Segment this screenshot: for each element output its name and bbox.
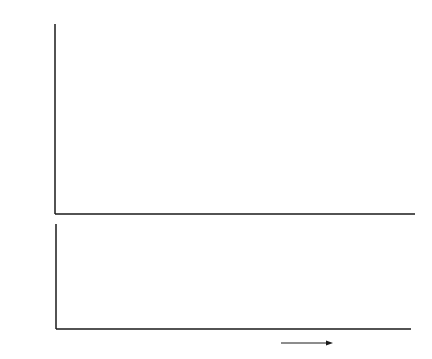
time-arrow-icon [281, 341, 333, 346]
phase-chart [55, 24, 415, 214]
figure [0, 0, 432, 359]
pressure-chart [56, 224, 411, 346]
